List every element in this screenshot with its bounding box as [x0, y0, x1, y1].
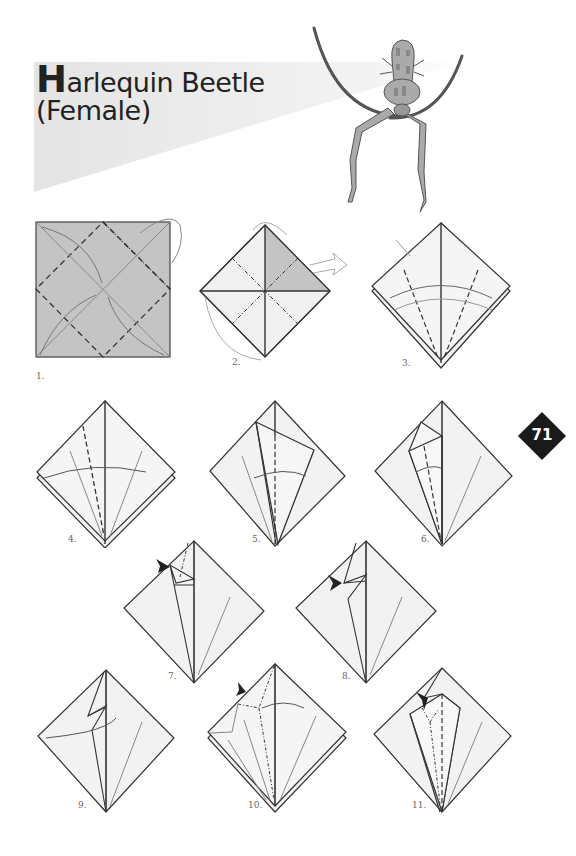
page-title: Harlequin Beetle (Female) [36, 66, 265, 125]
page-number: 71 [518, 426, 566, 444]
step-2-diagram: 2. [195, 215, 365, 375]
step-label: 4. [68, 534, 77, 544]
step-label: 11. [412, 800, 426, 810]
step-4-diagram: 4. [34, 396, 184, 548]
step-11-diagram: 11. [372, 664, 522, 816]
subtitle: (Female) [36, 95, 151, 126]
step-label: 3. [402, 358, 411, 368]
step-9-diagram: 9. [36, 666, 186, 816]
step-label: 10. [248, 800, 262, 810]
step-10-diagram: 10. [204, 660, 354, 815]
step-label: 9. [78, 800, 87, 810]
page-number-badge: 71 [518, 412, 566, 460]
step-1-diagram: 1. [30, 215, 200, 390]
step-label: 2. [232, 357, 241, 367]
title-text: arlequin Beetle [66, 67, 264, 98]
step-5-diagram: 5. [204, 396, 354, 548]
step-label: 1. [36, 371, 45, 381]
beetle-illustration [290, 20, 490, 220]
step-6-diagram: 6. [371, 396, 521, 548]
step-3-diagram: 3. [368, 218, 528, 378]
